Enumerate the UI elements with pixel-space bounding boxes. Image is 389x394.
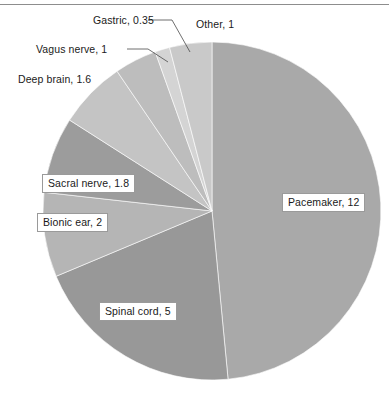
pie-chart: Gastric, 0.35 Other, 1 Vagus nerve, 1 De…: [0, 0, 389, 394]
slice-label-sacral-nerve: Sacral nerve, 1.8: [42, 174, 135, 193]
slice-label-other: Other, 1: [196, 18, 234, 30]
slice-label-spinal-cord: Spinal cord, 5: [99, 302, 177, 321]
figure-caption: [2, 384, 387, 393]
slice-label-vagus-nerve: Vagus nerve, 1: [36, 43, 107, 55]
slice-label-bionic-ear: Bionic ear, 2: [37, 213, 108, 232]
slice-label-pacemaker: Pacemaker, 12: [282, 193, 365, 212]
slice-label-deep-brain: Deep brain, 1.6: [18, 73, 91, 85]
slice-label-gastric: Gastric, 0.35: [93, 14, 154, 26]
